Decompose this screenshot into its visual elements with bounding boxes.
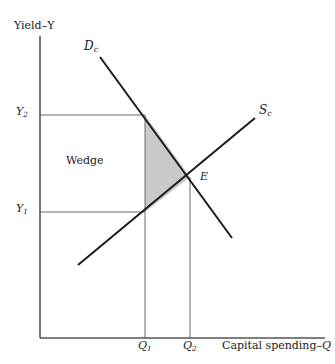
wedge-region-label: Wedge: [66, 155, 104, 166]
x-axis-label: Capital spending–Q: [222, 340, 331, 351]
equilibrium-point-label: E: [200, 171, 208, 182]
supply-curve: [78, 118, 255, 265]
y-tick-label-y2: Y2: [16, 106, 28, 117]
diagram-canvas: [0, 0, 335, 364]
x-tick-label-q2: Q2: [183, 340, 197, 351]
demand-curve: [100, 57, 232, 238]
y-tick-label-y1: Y1: [16, 203, 28, 214]
x-tick-label-q1: Q1: [138, 340, 152, 351]
demand-curve-label: Dc: [84, 40, 98, 52]
y-axis-label: Yield–Y: [14, 20, 54, 31]
supply-curve-label: Sc: [259, 104, 272, 116]
supply-demand-diagram: Yield–Y Capital spending–Q Y2 Y1 Q1 Q2 D…: [0, 0, 335, 364]
